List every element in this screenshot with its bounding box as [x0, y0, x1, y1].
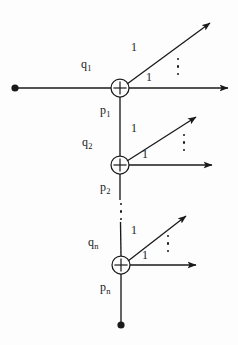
label-p2: p2 — [100, 181, 110, 193]
cascade-ellipsis — [120, 203, 123, 220]
signal-flow-diagram: q1 p1 1 1 q2 p2 1 1 qn pn 1 1 — [0, 0, 238, 345]
label-p1: p1 — [100, 104, 110, 116]
branch-ellipsis-2 — [183, 134, 186, 151]
gain-label-2-horizontal: 1 — [142, 148, 148, 160]
label-pn: pn — [100, 281, 110, 293]
branch-ellipsis-n — [167, 235, 170, 252]
output-branch-1-diagonal — [127, 23, 210, 84]
label-q2: q2 — [82, 136, 92, 148]
gain-label-2-diagonal: 1 — [131, 122, 137, 134]
gain-label-n-diagonal: 1 — [131, 224, 137, 236]
branch-ellipsis-1 — [177, 58, 180, 75]
gain-label-1-diagonal: 1 — [131, 41, 137, 53]
label-q1: q1 — [81, 58, 91, 70]
sink-terminal-dot — [117, 321, 124, 328]
diagram-canvas — [0, 0, 238, 345]
gain-label-n-horizontal: 1 — [142, 249, 148, 261]
label-qn: qn — [88, 236, 98, 248]
cascade-link-2-lower — [121, 222, 122, 256]
gain-label-1-horizontal: 1 — [146, 71, 152, 83]
